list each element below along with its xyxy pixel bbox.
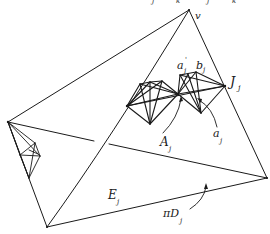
- label-v: v: [195, 10, 201, 21]
- edge-v-right: [189, 10, 267, 178]
- diagram-svg: j k j k v a ' j b j J j A j a j E j: [0, 0, 270, 234]
- svg-text:E: E: [107, 188, 117, 202]
- svg-text:': ': [185, 56, 187, 64]
- top-cutoff-text: j k j k: [150, 0, 236, 5]
- vertex-cluster-left: [126, 105, 128, 107]
- middle-cluster: [127, 81, 178, 124]
- diagram-canvas: j k j k v a ' j b j J j A j a j E j: [0, 0, 270, 234]
- vertex-v: [188, 9, 190, 11]
- svg-text:a: a: [177, 59, 184, 72]
- arrowhead-piDj: [204, 183, 208, 189]
- vertex-right: [266, 177, 268, 179]
- label-E-j: E j: [107, 188, 120, 206]
- labels: v a ' j b j J j A j a j E j πD j: [107, 10, 241, 225]
- cutoff-text-3: j: [205, 0, 210, 5]
- edge-v-left: [8, 10, 189, 122]
- cutoff-text-4: k: [232, 0, 236, 5]
- arrow-Aj: [163, 99, 181, 133]
- label-a-prime-j: a ' j: [177, 56, 187, 75]
- outer-edges: [8, 10, 267, 227]
- annotation-arrows: [163, 99, 217, 209]
- vertex-Jj: [224, 85, 226, 87]
- cutoff-text-1: j: [150, 0, 155, 5]
- label-J-j: J j: [227, 74, 241, 92]
- left-cluster: [8, 122, 40, 178]
- svg-text:πD: πD: [162, 207, 179, 220]
- cutoff-text-2: k: [176, 0, 180, 5]
- vertex-cluster-junction: [177, 93, 179, 95]
- arrow-aj: [199, 100, 217, 127]
- vertex-left: [7, 121, 9, 123]
- edge-left-right-part2: [109, 144, 267, 178]
- edge-bottom-right-Ej: [47, 178, 267, 227]
- arrow-piDj: [190, 187, 206, 209]
- svg-text:a: a: [213, 127, 220, 140]
- vertex-bottom: [46, 226, 48, 228]
- svg-text:A: A: [159, 135, 169, 149]
- edge-bottom-v: [47, 10, 189, 227]
- label-a-j: a j: [213, 127, 223, 145]
- svg-text:b: b: [196, 59, 203, 72]
- label-pi-D-j: πD j: [162, 207, 183, 225]
- label-A-j: A j: [159, 135, 172, 153]
- svg-text:j: j: [236, 83, 241, 92]
- svg-text:J: J: [227, 74, 236, 89]
- label-b-j: b j: [196, 59, 206, 74]
- arrowhead-Aj: [179, 96, 183, 102]
